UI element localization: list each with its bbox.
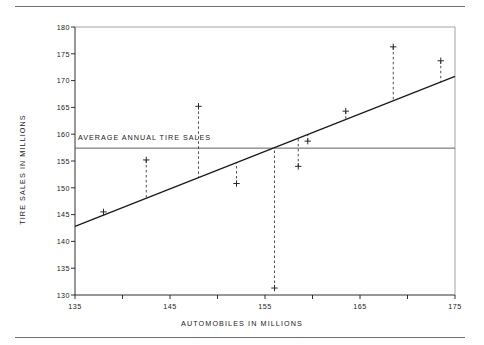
scatter-plot-canvas (0, 0, 484, 345)
plot-border (75, 27, 455, 295)
average-line-label: AVERAGE ANNUAL TIRE SALES (78, 133, 211, 142)
y-tick-label: 175 (40, 50, 70, 59)
data-point-marker (305, 138, 311, 144)
y-tick-label: 155 (40, 157, 70, 166)
x-tick-label: 135 (61, 302, 89, 311)
y-tick-label: 160 (40, 130, 70, 139)
y-tick-label: 170 (40, 76, 70, 85)
y-tick-label: 130 (40, 291, 70, 300)
data-point-marker (390, 44, 396, 50)
axes-group (71, 27, 455, 299)
y-tick-label: 165 (40, 103, 70, 112)
data-points-group (100, 44, 444, 292)
x-tick-label: 145 (156, 302, 184, 311)
data-point-marker (343, 108, 349, 114)
y-tick-label: 180 (40, 23, 70, 32)
axis-spines (75, 27, 455, 295)
data-point-marker (195, 103, 201, 109)
y-tick-label: 140 (40, 237, 70, 246)
data-point-marker (295, 163, 301, 169)
y-axis-title: TIRE SALES IN MILLIONS (18, 80, 27, 260)
x-tick-label: 175 (441, 302, 469, 311)
regression-line (75, 76, 455, 226)
residual-lines-group (104, 47, 441, 288)
data-point-marker (143, 157, 149, 163)
data-point-marker (233, 180, 239, 186)
x-tick-label: 155 (251, 302, 279, 311)
y-tick-label: 150 (40, 184, 70, 193)
data-point-marker (438, 58, 444, 64)
chart-figure: 1301351401451501551601651701751801351451… (0, 0, 484, 345)
x-tick-label: 165 (346, 302, 374, 311)
data-point-marker (271, 285, 277, 291)
y-tick-label: 135 (40, 264, 70, 273)
y-tick-label: 145 (40, 210, 70, 219)
x-axis-title: AUTOMOBILES IN MILLIONS (0, 319, 484, 328)
regression-line-group (75, 76, 455, 226)
